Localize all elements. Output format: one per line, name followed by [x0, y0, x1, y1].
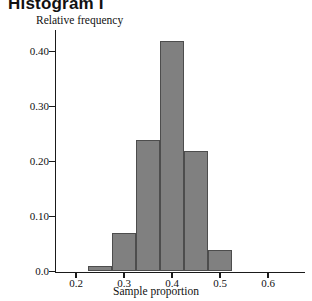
histogram-figure: Histogram I Relative frequency 0.00.100.…: [0, 0, 312, 301]
y-tick: [49, 216, 55, 217]
y-tick-label-wrap: 0.40: [0, 45, 49, 46]
y-tick-label: 0.10: [3, 210, 49, 222]
x-axis-label: Sample proportion: [0, 285, 312, 297]
y-tick: [49, 51, 55, 52]
y-tick-label: 0.0: [3, 265, 49, 277]
histogram-bar: [208, 250, 232, 272]
y-tick-label: 0.20: [3, 155, 49, 167]
y-tick-label: 0.30: [3, 100, 49, 112]
y-tick-label-wrap: 0.0: [0, 265, 49, 266]
histogram-bar: [88, 266, 112, 271]
y-tick: [49, 161, 55, 162]
histogram-bar: [112, 233, 136, 271]
plot-area: 0.00.100.200.300.400.20.30.40.50.6: [0, 0, 312, 301]
y-tick-label-wrap: 0.30: [0, 100, 49, 101]
y-tick: [49, 106, 55, 107]
y-tick-label-wrap: 0.10: [0, 210, 49, 211]
y-tick-label-wrap: 0.20: [0, 155, 49, 156]
histogram-bar: [160, 41, 184, 272]
y-tick: [49, 271, 55, 272]
histogram-bar: [184, 151, 208, 272]
histogram-bar: [136, 140, 160, 272]
y-tick-label: 0.40: [3, 45, 49, 57]
